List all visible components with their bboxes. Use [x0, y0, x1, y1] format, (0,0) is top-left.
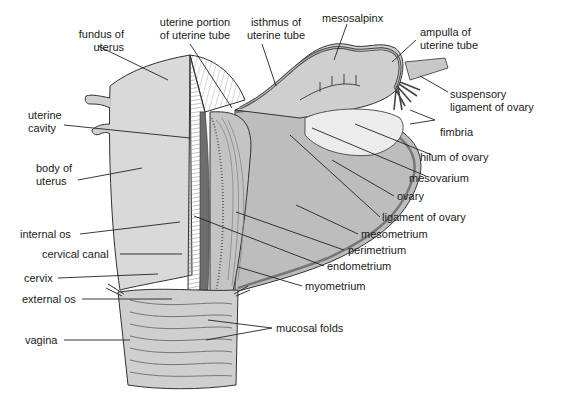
- label-vagina: vagina: [25, 334, 57, 347]
- label-internal-os: internal os: [20, 228, 71, 241]
- anatomy-diagram: fundus of uterus uterine portion of uter…: [0, 0, 563, 396]
- label-fundus-of-uterus: fundus of uterus: [40, 28, 124, 54]
- uterine-tube-shape: [235, 44, 420, 118]
- label-fimbria: fimbria: [440, 126, 473, 139]
- suspensory-ligament-shape: [405, 58, 448, 80]
- label-mesovarium: mesovarium: [409, 172, 469, 185]
- label-uterine-portion-of-uterine-tube: uterine portion of uterine tube: [140, 16, 250, 42]
- label-isthmus-of-uterine-tube: isthmus of uterine tube: [236, 16, 316, 42]
- label-mesometrium: mesometrium: [361, 228, 428, 241]
- label-perimetrium: perimetrium: [348, 244, 406, 257]
- label-suspensory-ligament-of-ovary: suspensory ligament of ovary: [450, 88, 534, 114]
- label-cervical-canal: cervical canal: [42, 248, 109, 261]
- label-ovary: ovary: [397, 190, 424, 203]
- label-mesosalpinx: mesosalpinx: [322, 12, 383, 25]
- label-ligament-of-ovary: ligament of ovary: [382, 211, 466, 224]
- label-ampulla-of-uterine-tube: ampulla of uterine tube: [420, 26, 478, 52]
- label-cervix: cervix: [24, 272, 53, 285]
- label-mucosal-folds: mucosal folds: [276, 322, 343, 335]
- label-hilum-of-ovary: hilum of ovary: [420, 151, 488, 164]
- uterus-illustration: [0, 0, 563, 396]
- label-external-os: external os: [22, 293, 76, 306]
- label-endometrium: endometrium: [327, 260, 391, 273]
- label-body-of-uterus: body of uterus: [36, 162, 72, 188]
- label-myometrium: myometrium: [305, 280, 366, 293]
- label-uterine-cavity: uterine cavity: [28, 109, 62, 135]
